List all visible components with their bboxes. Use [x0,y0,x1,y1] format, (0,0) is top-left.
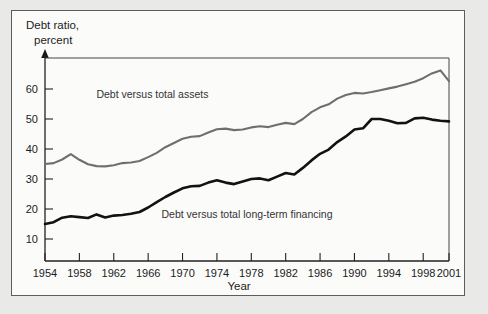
x-tick-label-1986: 1986 [308,267,332,279]
plot-frame [45,56,449,261]
chart-plot-area: Debt ratio, percent 102030405060 1954195… [12,11,466,297]
x-tick-label-1982: 1982 [273,267,297,279]
x-tick-label-1966: 1966 [136,267,160,279]
x-tick-label-1970: 1970 [170,267,194,279]
x-tick-label-2001: 2001 [437,267,461,279]
x-tick-label-1990: 1990 [342,267,366,279]
x-tick-label-1954: 1954 [33,267,57,279]
y-tick-label-20: 20 [26,203,38,215]
x-tick-label-1978: 1978 [239,267,263,279]
y-axis-label-line1: Debt ratio, [26,19,79,31]
y-tick-label-30: 30 [26,173,38,185]
y-tick-label-60: 60 [26,83,38,95]
series-annotation-group: Debt versus total assetsDebt versus tota… [96,88,332,220]
x-tick-label-1962: 1962 [102,267,126,279]
x-axis-ticks: 1954195819621966197019741978198219861990… [33,253,461,279]
x-tick-label-1994: 1994 [377,267,401,279]
y-axis-label-line2: percent [34,34,73,46]
y-tick-label-40: 40 [26,143,38,155]
debt-ratio-line-chart: Debt ratio, percent 102030405060 1954195… [12,11,466,297]
x-tick-label-1998: 1998 [411,267,435,279]
y-tick-label-10: 10 [26,233,38,245]
series-line-total-assets [45,70,449,166]
figure-panel: Debt ratio, percent 102030405060 1954195… [11,10,465,296]
series-label-total-assets: Debt versus total assets [96,88,208,100]
series-label-long-term-financing: Debt versus total long-term financing [162,208,333,220]
y-tick-label-50: 50 [26,113,38,125]
x-tick-label-1958: 1958 [67,267,91,279]
x-tick-label-1974: 1974 [205,267,229,279]
x-axis-label: Year [227,280,250,292]
